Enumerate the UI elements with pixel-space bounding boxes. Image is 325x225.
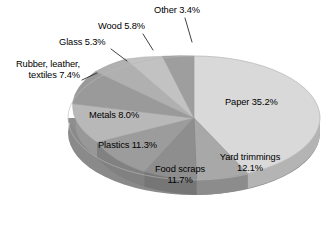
slice-label-rubber-line2: textiles 7.4% <box>0 70 80 81</box>
pie-chart-figure: Other 3.4% Wood 5.8% Glass 5.3% Rubber, … <box>0 0 325 225</box>
slice-label-plastics: Plastics 11.3% <box>98 140 157 151</box>
leader-line-glass <box>111 49 127 61</box>
slice-label-rubber-line1: Rubber, leather, <box>0 59 80 70</box>
slice-label-food-scraps-line2: 11.7% <box>146 175 214 186</box>
slice-label-paper: Paper 35.2% <box>225 97 278 108</box>
slice-label-metals: Metals 8.0% <box>89 110 139 121</box>
slice-label-yard-trimmings-line1: Yard trimmings <box>207 152 293 163</box>
slice-label-yard-trimmings-line2: 12.1% <box>207 163 293 174</box>
slice-label-other: Other 3.4% <box>154 5 200 16</box>
slice-label-wood: Wood 5.8% <box>98 21 145 32</box>
slice-label-food-scraps-line1: Food scraps <box>146 164 214 175</box>
leader-line-wood <box>143 34 153 50</box>
leader-line-other <box>185 18 192 42</box>
pie-chart-canvas <box>0 0 325 225</box>
slice-label-glass: Glass 5.3% <box>59 37 106 48</box>
